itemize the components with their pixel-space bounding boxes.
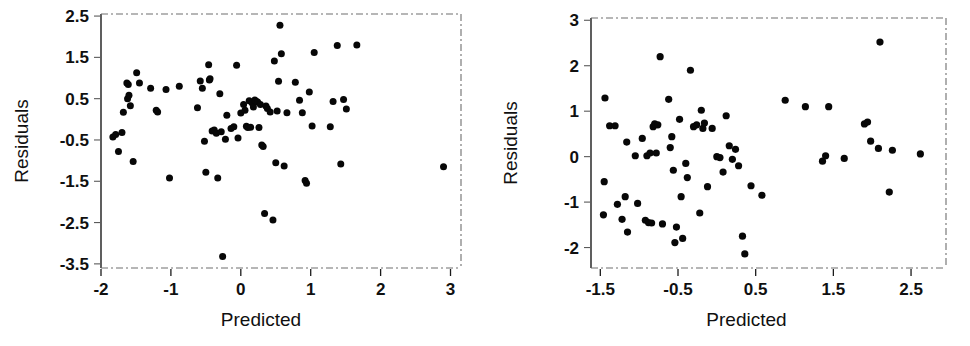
data-point xyxy=(233,62,240,69)
data-point xyxy=(646,149,653,156)
data-point xyxy=(889,147,896,154)
data-point xyxy=(216,90,223,97)
data-point xyxy=(679,235,686,242)
x-axis: -2-10123 xyxy=(93,269,455,299)
data-point xyxy=(668,133,675,140)
data-point xyxy=(864,118,871,125)
data-point xyxy=(825,103,832,110)
data-point xyxy=(235,134,242,141)
x-tick-label: 0 xyxy=(236,280,245,299)
data-point xyxy=(194,104,201,111)
data-point xyxy=(876,38,883,45)
data-point xyxy=(611,122,618,129)
data-point xyxy=(260,143,267,150)
data-point xyxy=(657,53,664,60)
data-point xyxy=(272,159,279,166)
data-point xyxy=(327,123,334,130)
data-point xyxy=(623,138,630,145)
data-point xyxy=(875,145,882,152)
data-point xyxy=(648,219,655,226)
y-tick-label: 2 xyxy=(570,57,579,76)
data-point xyxy=(133,69,140,76)
x-tick-label: 2 xyxy=(376,280,385,299)
data-point xyxy=(201,138,208,145)
data-point xyxy=(269,217,276,224)
data-point xyxy=(741,250,748,257)
data-point xyxy=(671,239,678,246)
x-tick-label: 0.5 xyxy=(744,280,768,299)
right-scatter-plot: 3210-1-2-1.5-0.50.51.52.5PredictedResidu… xyxy=(485,0,970,346)
data-point xyxy=(255,124,262,131)
x-tick-label: -1.5 xyxy=(586,280,615,299)
y-tick-label: 1 xyxy=(570,102,579,121)
data-point xyxy=(654,121,661,128)
y-axis: 2.51.50.5-0.5-1.5-2.5-3.5 xyxy=(60,7,100,274)
y-axis-title: Residuals xyxy=(500,101,521,184)
data-point xyxy=(841,155,848,162)
data-point xyxy=(275,78,282,85)
x-tick-label: 3 xyxy=(446,280,455,299)
data-point xyxy=(622,193,629,200)
data-point xyxy=(334,42,341,49)
data-point xyxy=(716,154,723,161)
data-point xyxy=(242,107,249,114)
data-point xyxy=(698,107,705,114)
data-point xyxy=(166,174,173,181)
data-point xyxy=(330,98,337,105)
data-point xyxy=(682,160,689,167)
data-point xyxy=(202,169,209,176)
x-tick-label: 2.5 xyxy=(899,280,923,299)
data-point xyxy=(176,83,183,90)
data-point xyxy=(440,163,447,170)
x-tick-label: -0.5 xyxy=(663,280,692,299)
left-scatter-plot: 2.51.50.5-0.5-1.5-2.5-3.5-2-10123Predict… xyxy=(0,0,485,346)
data-point xyxy=(136,79,143,86)
data-point xyxy=(222,136,229,143)
data-point xyxy=(125,81,132,88)
data-point xyxy=(154,108,161,115)
data-point xyxy=(271,58,278,65)
data-point xyxy=(205,61,212,68)
x-axis-title: Predicted xyxy=(706,309,786,330)
data-point xyxy=(709,125,716,132)
y-tick-label: -0.5 xyxy=(60,131,89,150)
data-point xyxy=(917,150,924,157)
data-point xyxy=(299,109,306,116)
data-point xyxy=(163,86,170,93)
data-point xyxy=(723,112,730,119)
data-point xyxy=(673,223,680,230)
data-point xyxy=(199,85,206,92)
data-point xyxy=(782,97,789,104)
y-axis: 3210-1-2 xyxy=(564,11,590,257)
data-point xyxy=(684,174,691,181)
y-tick-label: -1 xyxy=(564,193,579,212)
data-point xyxy=(120,109,127,116)
data-point xyxy=(719,168,726,175)
data-point xyxy=(693,121,700,128)
data-point xyxy=(639,135,646,142)
data-point xyxy=(276,22,283,29)
y-tick-label: -1.5 xyxy=(60,172,89,191)
data-point xyxy=(802,103,809,110)
data-point xyxy=(311,49,318,56)
data-point xyxy=(218,128,225,135)
data-point xyxy=(653,149,660,156)
data-point xyxy=(822,152,829,159)
y-tick-label: 2.5 xyxy=(65,7,89,26)
y-tick-label: -3.5 xyxy=(60,255,89,274)
y-tick-label: 0 xyxy=(570,148,579,167)
data-point xyxy=(867,138,874,145)
x-tick-label: -1 xyxy=(163,280,178,299)
data-point xyxy=(261,210,268,217)
data-point xyxy=(343,105,350,112)
right-scatter-panel: 3210-1-2-1.5-0.50.51.52.5PredictedResidu… xyxy=(485,0,970,346)
data-point xyxy=(886,188,893,195)
data-point xyxy=(614,201,621,208)
y-tick-label: -2 xyxy=(564,239,579,258)
data-point xyxy=(214,174,221,181)
data-point xyxy=(306,89,313,96)
data-point xyxy=(696,209,703,216)
data-point xyxy=(296,97,303,104)
data-points xyxy=(109,22,447,260)
data-point xyxy=(281,162,288,169)
